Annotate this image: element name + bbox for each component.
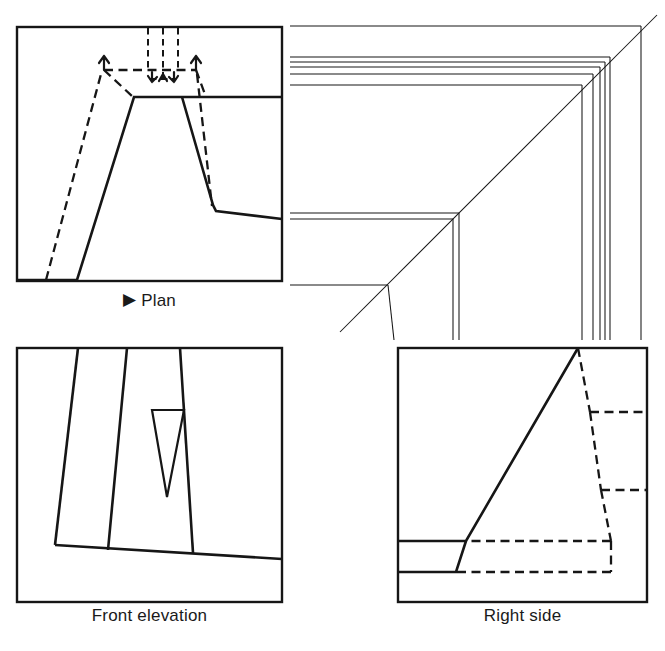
pictorial-lines xyxy=(290,15,657,340)
caption-right-side: Right side xyxy=(398,606,647,626)
caption-front-elevation-label: Front elevation xyxy=(92,606,207,625)
panel-plan xyxy=(0,0,300,300)
panel-right-side xyxy=(390,330,665,620)
front-elevation-triangle-opening xyxy=(152,410,184,497)
caption-plan-label: Plan xyxy=(141,291,176,310)
front-elevation-drawing xyxy=(0,330,300,620)
panel-front-elevation xyxy=(0,330,300,620)
plan-drawing xyxy=(0,0,300,300)
plan-visible-outline xyxy=(17,97,282,280)
drawing-plate: ▶Plan xyxy=(0,0,665,651)
plan-marker-icon: ▶ xyxy=(123,289,136,310)
front-elevation-outline xyxy=(55,348,282,559)
right-side-frame xyxy=(398,348,647,602)
right-side-visible-outline xyxy=(398,348,578,572)
caption-front-elevation: Front elevation xyxy=(17,606,282,626)
pictorial-corner-drawing xyxy=(284,0,665,340)
caption-plan: ▶Plan xyxy=(17,290,282,311)
front-elevation-frame xyxy=(17,348,282,602)
miter-line xyxy=(340,15,657,332)
panel-pictorial xyxy=(284,0,665,340)
right-side-hidden-lines xyxy=(456,348,647,572)
plan-hidden-lines xyxy=(46,70,212,280)
caption-right-side-label: Right side xyxy=(484,606,562,625)
plan-frame xyxy=(17,27,282,281)
right-side-drawing xyxy=(390,330,665,620)
